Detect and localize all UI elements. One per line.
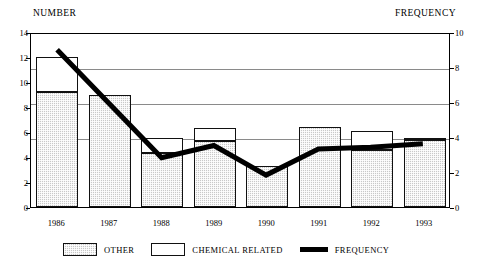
legend-item-frequency: FREQUENCY	[300, 245, 390, 255]
right-axis-title: FREQUENCY	[395, 8, 456, 18]
right-tick-mark	[450, 103, 454, 104]
bar-segment-chemical-related	[351, 131, 393, 150]
category-label: 1991	[293, 218, 346, 228]
left-tick-mark	[26, 108, 30, 109]
category-label: 1987	[83, 218, 136, 228]
chart-legend: OTHER CHEMICAL RELATED FREQUENCY	[63, 243, 389, 256]
left-tick-mark	[26, 183, 30, 184]
right-tick-label: 0	[455, 204, 459, 213]
bar-segment-other	[246, 166, 288, 207]
chart-container: NUMBER FREQUENCY 14121086420 1086420 198…	[0, 0, 480, 275]
other-swatch	[63, 243, 97, 256]
category-label: 1992	[345, 218, 398, 228]
bar-group	[89, 32, 131, 207]
legend-item-chemical-related: CHEMICAL RELATED	[151, 243, 282, 256]
left-tick-mark	[26, 58, 30, 59]
bar-group	[351, 32, 393, 207]
bar-group	[246, 32, 288, 207]
legend-label-other: OTHER	[104, 245, 134, 255]
right-tick-label: 6	[455, 99, 459, 108]
chemical-related-swatch	[151, 243, 185, 256]
bar-group	[194, 32, 236, 207]
category-label: 1989	[188, 218, 241, 228]
category-label: 1988	[135, 218, 188, 228]
frequency-line-swatch	[300, 247, 328, 252]
left-axis-title: NUMBER	[33, 8, 76, 18]
bar-segment-other	[89, 95, 131, 208]
legend-label-frequency: FREQUENCY	[335, 245, 390, 255]
bar-series-layer	[31, 34, 449, 207]
bar-segment-chemical-related	[36, 57, 78, 92]
bar-segment-chemical-related	[141, 138, 183, 153]
right-tick-label: 8	[455, 64, 459, 73]
bar-segment-other	[36, 92, 78, 207]
bar-segment-other	[141, 153, 183, 207]
left-tick-mark	[26, 133, 30, 134]
bar-segment-other	[194, 141, 236, 207]
left-tick-mark	[26, 158, 30, 159]
category-label: 1993	[398, 218, 451, 228]
bar-group	[141, 32, 183, 207]
bar-segment-chemical-related	[404, 138, 446, 140]
category-label: 1990	[240, 218, 293, 228]
bar-segment-other	[404, 140, 446, 208]
bar-segment-other	[351, 150, 393, 208]
legend-item-other: OTHER	[63, 243, 134, 256]
left-tick-mark	[26, 83, 30, 84]
right-tick-mark	[450, 208, 454, 209]
right-tick-label: 4	[455, 134, 459, 143]
left-tick-mark	[26, 208, 30, 209]
right-tick-mark	[450, 173, 454, 174]
right-tick-mark	[450, 138, 454, 139]
legend-label-chemical-related: CHEMICAL RELATED	[192, 245, 282, 255]
right-tick-label: 2	[455, 169, 459, 178]
left-tick-mark	[26, 33, 30, 34]
bar-group	[404, 32, 446, 207]
right-tick-mark	[450, 33, 454, 34]
bar-group	[36, 32, 78, 207]
plot-area	[30, 33, 450, 208]
bar-segment-chemical-related	[194, 128, 236, 141]
bar-segment-other	[299, 127, 341, 207]
right-tick-label: 10	[455, 29, 464, 38]
right-tick-mark	[450, 68, 454, 69]
category-label: 1986	[30, 218, 83, 228]
bar-group	[299, 32, 341, 207]
